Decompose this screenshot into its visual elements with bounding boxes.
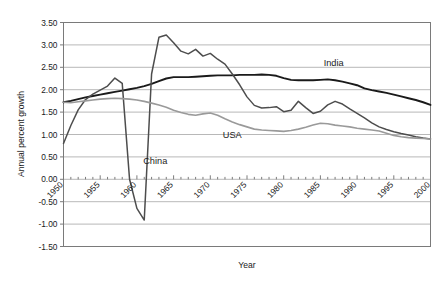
y-tick-label: -1.00 — [38, 219, 57, 229]
y-tick-label: -1.50 — [38, 242, 57, 252]
annotation-china: China — [143, 156, 168, 166]
y-tick-label: 1.00 — [41, 130, 58, 140]
annotation-india: India — [324, 58, 345, 68]
y-tick-label: 0.50 — [41, 152, 58, 162]
y-tick-label: 2.50 — [41, 62, 58, 72]
annotation-usa: USA — [223, 130, 243, 140]
y-tick-label: 1.50 — [41, 107, 58, 117]
line-chart: 3.503.002.502.001.501.000.500.00-0.50-1.… — [0, 0, 446, 282]
x-axis-title: Year — [238, 260, 256, 270]
y-tick-label: 3.00 — [41, 40, 58, 50]
chart-page: 3.503.002.502.001.501.000.500.00-0.50-1.… — [0, 0, 446, 282]
y-tick-label: 2.00 — [41, 85, 58, 95]
y-tick-label: -0.50 — [38, 197, 57, 207]
y-tick-label: 3.50 — [41, 18, 58, 28]
chart-background — [0, 0, 446, 282]
y-axis-title: Annual percent growth — [16, 91, 26, 177]
